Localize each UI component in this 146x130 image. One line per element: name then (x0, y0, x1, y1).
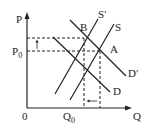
supply-curve-s-prime (55, 19, 98, 94)
point-b-label: B (80, 22, 87, 33)
supply-label: S (115, 22, 121, 33)
supply-curve-s (70, 24, 114, 100)
price-up-arrowhead-icon (36, 40, 39, 43)
demand-label: D (113, 86, 121, 97)
demand-shifted-label: D′ (128, 68, 138, 79)
x-axis-label: Q (133, 111, 141, 122)
quantity-left-arrowhead-icon (87, 100, 90, 103)
y-axis-label: P (16, 14, 22, 25)
p0-label: P0 (12, 46, 22, 60)
supply-shifted-label: S′ (98, 9, 107, 20)
origin-label: 0 (22, 111, 28, 122)
q0-label: Q0 (63, 111, 75, 125)
x-axis-arrow-icon (125, 106, 132, 111)
point-a-label: A (110, 44, 118, 55)
y-axis-arrow-icon (25, 12, 30, 19)
